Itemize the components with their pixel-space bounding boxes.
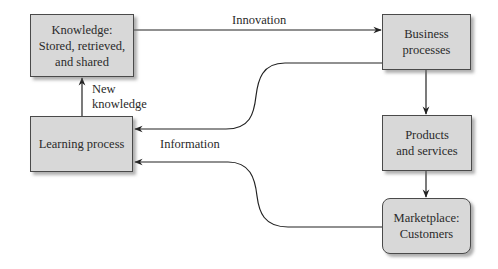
edge-label-innovation: Innovation — [232, 13, 286, 28]
edge-business-to-learning — [135, 63, 382, 129]
node-business-processes: Business processes — [382, 14, 471, 70]
node-marketplace: Marketplace: Customers — [382, 198, 471, 254]
node-knowledge: Knowledge: Stored, retrieved, and shared — [30, 14, 134, 77]
node-products-services: Products and services — [382, 115, 472, 171]
node-marketplace-label: Marketplace: Customers — [394, 210, 460, 242]
edge-label-new-knowledge: New knowledge — [92, 82, 147, 112]
edge-label-information: Information — [160, 137, 220, 152]
node-learning-process: Learning process — [30, 116, 133, 172]
node-business-processes-label: Business processes — [403, 26, 451, 58]
edge-information — [135, 162, 382, 227]
node-learning-process-label: Learning process — [39, 136, 125, 152]
diagram-canvas: Knowledge: Stored, retrieved, and shared… — [0, 0, 498, 269]
node-products-services-label: Products and services — [396, 127, 457, 159]
node-knowledge-label: Knowledge: Stored, retrieved, and shared — [39, 22, 125, 70]
